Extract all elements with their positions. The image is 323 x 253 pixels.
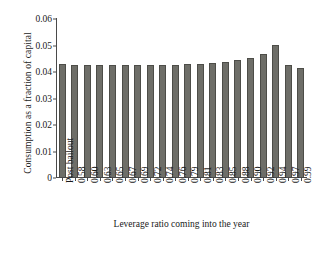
y-tick-mark [53,45,56,46]
x-tick-mark [238,178,239,181]
x-tick-mark [138,178,139,181]
x-tick-mark [175,178,176,181]
x-axis-title: Leverage ratio coming into the year [56,219,307,229]
bar [84,65,91,177]
x-tick-label: Post bailout [66,138,76,183]
y-tick-mark [53,178,56,179]
bar [184,64,191,177]
y-tick-mark [53,151,56,152]
x-tick-mark [225,178,226,181]
chart-figure: Consumption as a fraction of capital 00.… [0,0,323,253]
bar [285,65,292,177]
y-tick-mark [53,72,56,73]
x-tick-mark [112,178,113,181]
y-axis-line [56,18,57,178]
x-tick-mark [263,178,264,181]
bar [297,68,304,177]
x-tick-mark [125,178,126,181]
bar [159,65,166,177]
x-tick-mark [288,178,289,181]
x-tick-mark [163,178,164,181]
x-tick-mark [213,178,214,181]
x-tick-mark [276,178,277,181]
bar [209,63,216,177]
x-tick-mark [75,178,76,181]
bar [247,58,254,177]
bar [122,65,129,177]
x-tick-mark [251,178,252,181]
bar [134,65,141,177]
y-tick-mark [53,125,56,126]
bar [197,64,204,177]
x-tick-mark [87,178,88,181]
y-tick-mark [53,98,56,99]
x-tick-mark [188,178,189,181]
bar [260,54,267,177]
bar [222,62,229,177]
bar [96,65,103,177]
x-tick-mark [150,178,151,181]
x-tick-label: 0.99 [304,166,314,183]
x-tick-mark [100,178,101,181]
x-tick-mark [301,178,302,181]
y-axis-title: Consumption as a fraction of capital [23,13,33,193]
bar [172,65,179,177]
x-tick-mark [200,178,201,181]
x-tick-mark [62,178,63,181]
bar [147,65,154,177]
y-tick-mark [53,19,56,20]
plot-area: 00.010.020.030.040.050.06 Post bailout0.… [56,18,307,178]
bar [109,65,116,177]
bar [234,60,241,177]
bar [272,45,279,178]
